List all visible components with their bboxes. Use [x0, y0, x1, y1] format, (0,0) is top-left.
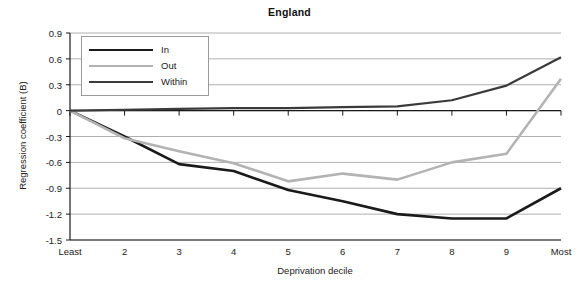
legend-item-within: Within — [89, 74, 201, 90]
legend-label-within: Within — [161, 77, 187, 87]
legend-swatch-in — [89, 49, 153, 51]
legend-swatch-within — [89, 81, 153, 83]
legend-label-in: In — [161, 45, 169, 55]
legend-swatch-out — [89, 65, 153, 67]
legend-item-out: Out — [89, 58, 201, 74]
chart-figure: England Regression coefficient (B) Depri… — [0, 0, 579, 291]
legend-label-out: Out — [161, 61, 176, 71]
x-axis-ticks — [70, 111, 561, 116]
series-line-in — [70, 111, 561, 219]
legend-item-in: In — [89, 42, 201, 58]
chart-legend: In Out Within — [81, 36, 209, 96]
